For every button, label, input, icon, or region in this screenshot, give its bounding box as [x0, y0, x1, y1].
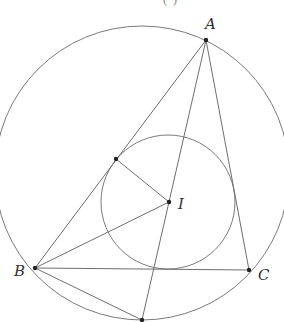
point-arc-midpoint	[140, 318, 144, 322]
label-c: C	[258, 266, 270, 284]
geometry-diagram: ( ) A B C I	[0, 0, 284, 322]
point-b	[33, 266, 37, 270]
side-ac	[206, 40, 249, 270]
caption-partial: ( )	[162, 0, 177, 7]
circumcircle	[0, 26, 284, 320]
point-c	[247, 268, 251, 272]
side-bc	[35, 268, 249, 270]
segment-bd	[35, 268, 142, 320]
label-b: B	[13, 262, 25, 280]
point-a	[204, 38, 208, 42]
radius-to-ab	[116, 159, 169, 202]
label-a: A	[203, 15, 216, 33]
label-i: I	[177, 195, 185, 213]
point-i	[167, 200, 171, 204]
point-tangent-ab	[114, 157, 118, 161]
